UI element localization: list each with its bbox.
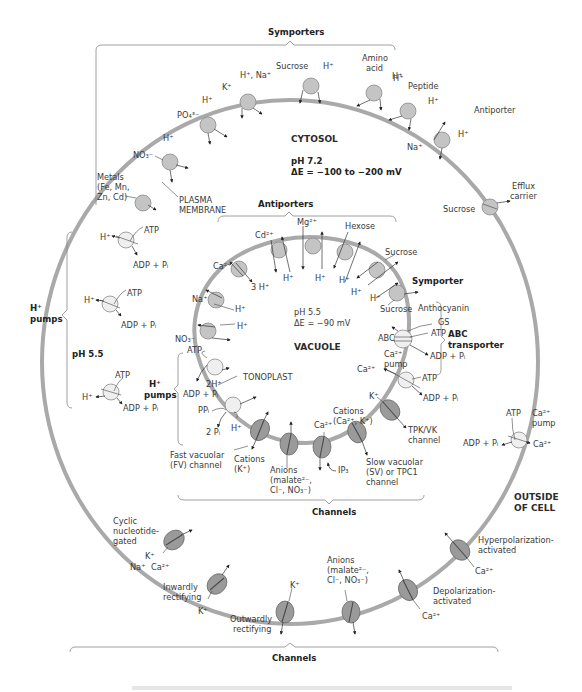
svg-text:H⁺: H⁺: [84, 295, 94, 305]
svg-text:Ca²⁺: Ca²⁺: [384, 349, 402, 359]
cytosol-label: CYTOSOL: [291, 134, 338, 144]
plasma-membrane-label: PLASMA: [179, 195, 213, 205]
vac-anion-channel: Anions (malate²⁻, Cl⁻, NO₃⁻): [270, 422, 312, 495]
cytosol-ph: pH 7.2: [291, 156, 323, 166]
vac-na-antiporter: Na⁺ H⁺: [192, 290, 245, 314]
cytosol-de: ΔE = −100 to −200 mV: [291, 167, 402, 177]
phosphate-symporter: PO₄³⁻ H⁺: [177, 95, 227, 144]
svg-text:Fast vacuolar: Fast vacuolar: [170, 450, 225, 460]
sucrose-symporter: Sucrose H⁺: [276, 61, 333, 103]
svg-text:Sucrose: Sucrose: [385, 247, 417, 257]
potassium-sodium-symporter: K⁺ H⁺, Na⁺: [222, 70, 271, 118]
svg-text:ATP: ATP: [127, 288, 142, 298]
symporters-brace: [96, 41, 395, 205]
svg-text:Cd²⁺: Cd²⁺: [255, 230, 274, 240]
svg-text:ATP: ATP: [187, 345, 202, 355]
svg-text:(FV) channel: (FV) channel: [170, 460, 222, 470]
svg-text:Amino: Amino: [362, 53, 388, 63]
svg-text:3 H⁺: 3 H⁺: [251, 282, 269, 292]
vac-sucrose-antiporter: Sucrose H⁺: [351, 247, 417, 297]
svg-text:ABC: ABC: [378, 333, 395, 343]
svg-text:TPK/VK: TPK/VK: [407, 425, 438, 435]
amino-acid-symporter: Amino acid H⁺: [357, 53, 403, 110]
svg-text:H⁺: H⁺: [82, 392, 92, 402]
svg-text:(K⁺): (K⁺): [234, 464, 250, 474]
sucrose-efflux-carrier: Sucrose Efflux carrier: [443, 181, 537, 215]
outside-label: OUTSIDE: [514, 492, 559, 502]
pm-channels-brace: [70, 643, 498, 652]
svg-text:Anions: Anions: [270, 465, 298, 475]
svg-text:Ca²⁺: Ca²⁺: [213, 261, 231, 271]
svg-text:Anions: Anions: [327, 555, 355, 565]
svg-text:Metals: Metals: [97, 172, 124, 182]
svg-text:Na⁺: Na⁺: [130, 562, 145, 572]
svg-text:K⁺: K⁺: [369, 391, 379, 401]
svg-text:H⁺: H⁺: [339, 275, 349, 285]
svg-text:(malate²⁻,: (malate²⁻,: [270, 475, 312, 485]
svg-text:ADP + Pᵢ: ADP + Pᵢ: [133, 260, 168, 270]
svg-text:ADP + Pᵢ: ADP + Pᵢ: [463, 438, 498, 448]
pm-channels-label: Channels: [272, 653, 316, 663]
svg-text:activated: activated: [433, 596, 471, 606]
svg-text:carrier: carrier: [510, 191, 537, 201]
na-h-antiporter: Na⁺ H⁺ Antiporter: [407, 105, 516, 159]
vac-channels-label: Channels: [312, 507, 356, 517]
svg-text:pump: pump: [384, 359, 408, 369]
svg-text:Ca²⁺: Ca²⁺: [533, 439, 551, 449]
svg-text:Symporter: Symporter: [412, 276, 464, 286]
svg-text:H⁺: H⁺: [323, 61, 333, 71]
vac-ca-antiporter: Ca²⁺ 3 H⁺: [213, 261, 269, 292]
svg-text:K⁺: K⁺: [145, 551, 155, 561]
svg-text:Peptide: Peptide: [408, 81, 439, 91]
svg-text:K⁺: K⁺: [222, 82, 232, 92]
svg-text:H⁺, Na⁺: H⁺, Na⁺: [240, 70, 271, 80]
svg-text:Efflux: Efflux: [512, 181, 535, 191]
svg-text:H⁺: H⁺: [458, 129, 468, 139]
svg-text:acid: acid: [366, 63, 383, 73]
svg-text:K⁺: K⁺: [198, 606, 208, 616]
svg-text:activated: activated: [478, 545, 516, 555]
vac-channels-brace: [178, 495, 424, 504]
svg-text:2H⁺: 2H⁺: [206, 379, 222, 389]
svg-text:(Ca²⁺, K⁺): (Ca²⁺, K⁺): [333, 416, 373, 426]
svg-text:Ca²⁺: Ca²⁺: [532, 408, 550, 418]
vac-mg-antiporter: Mg²⁺ H⁺: [297, 217, 325, 283]
svg-text:H⁺: H⁺: [315, 273, 325, 283]
svg-text:channel: channel: [408, 435, 440, 445]
vacuole-de: ΔE = −90 mV: [294, 318, 351, 328]
vac-hexose-antiporter: Hexose H⁺: [334, 221, 375, 285]
svg-text:(Fe, Mn,: (Fe, Mn,: [97, 182, 130, 192]
svg-text:ATP: ATP: [431, 328, 446, 338]
pm-h-pumps-label: H⁺: [30, 303, 42, 313]
svg-text:H⁺: H⁺: [428, 96, 438, 106]
vac-abc-label: transporter: [448, 340, 505, 350]
svg-text:H⁺: H⁺: [351, 287, 361, 297]
svg-text:Ca²⁺: Ca²⁺: [151, 562, 169, 572]
pm-h-pump-2: H⁺ ATP ADP + Pᵢ: [84, 288, 156, 330]
vac-ca-channel: Ca²⁺ IP₃: [313, 420, 349, 475]
svg-text:gated: gated: [113, 536, 137, 546]
svg-text:PO₄³⁻: PO₄³⁻: [177, 110, 199, 120]
svg-text:ATP: ATP: [422, 373, 437, 383]
svg-text:Slow vacuolar: Slow vacuolar: [366, 457, 424, 467]
svg-text:Sucrose: Sucrose: [380, 304, 412, 314]
svg-text:Mg²⁺: Mg²⁺: [297, 217, 317, 227]
svg-text:(SV) or TPC1: (SV) or TPC1: [366, 467, 418, 477]
svg-text:Hyperpolarization-: Hyperpolarization-: [478, 535, 554, 545]
svg-text:Ca²⁺: Ca²⁺: [314, 420, 332, 430]
svg-text:Antiporter: Antiporter: [474, 105, 516, 115]
svg-text:Hexose: Hexose: [345, 221, 375, 231]
svg-text:H⁺: H⁺: [370, 293, 380, 303]
svg-text:Outwardly: Outwardly: [230, 614, 272, 624]
hyperpolarization-activated-channel: Hyperpolarization- activated Ca²⁺: [445, 533, 554, 576]
vac-abc-label: ABC: [448, 329, 468, 339]
svg-text:Ca²⁺: Ca²⁺: [422, 611, 440, 621]
svg-text:ADP + Pᵢ: ADP + Pᵢ: [123, 403, 158, 413]
svg-text:Depolarization-: Depolarization-: [433, 586, 495, 596]
vac-nitrate-antiporter: NO₃⁻ H⁺: [175, 321, 247, 344]
fv-channel: Fast vacuolar (FV) channel Cations (K⁺): [170, 412, 273, 474]
svg-text:Anthocyanin: Anthocyanin: [418, 303, 469, 313]
pm-h-pump-1: H⁺ ATP ADP + Pᵢ: [100, 225, 168, 270]
svg-text:(malate²⁻,: (malate²⁻,: [327, 565, 369, 575]
cropped-caption: [132, 686, 512, 690]
